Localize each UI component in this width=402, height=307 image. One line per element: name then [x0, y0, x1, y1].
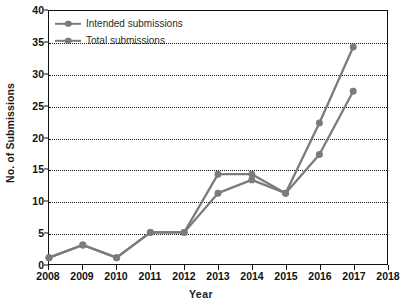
x-axis-tick-label: 2011: [139, 270, 162, 282]
y-axis-title: No. of Submissions: [0, 0, 20, 265]
data-point-marker: [350, 44, 357, 51]
data-point-marker: [316, 119, 323, 126]
x-axis-tick-label: 2018: [376, 270, 399, 282]
x-axis-tick-label: 2013: [206, 270, 229, 282]
series-2: [46, 44, 357, 262]
data-point-marker: [350, 88, 357, 95]
data-point-marker: [215, 190, 222, 197]
y-axis-tick-label: 35: [32, 36, 44, 48]
x-axis-tick-label: 2016: [308, 270, 331, 282]
y-axis-tick-label: 20: [32, 132, 44, 144]
chart-figure: No. of Submissions 0510152025303540 Inte…: [0, 0, 402, 307]
data-point-marker: [282, 190, 289, 197]
x-axis-tick-labels: 2008200920102011201220132014201520162017…: [0, 270, 402, 286]
y-axis-tick-label: 40: [32, 4, 44, 16]
y-axis-tick-label: 15: [32, 163, 44, 175]
x-axis-title: Year: [0, 288, 402, 300]
x-axis-tick-label: 2014: [240, 270, 263, 282]
data-point-marker: [215, 171, 222, 178]
x-axis-tick-label: 2017: [342, 270, 365, 282]
data-point-marker: [46, 254, 53, 261]
data-point-marker: [248, 171, 255, 178]
data-point-marker: [113, 254, 120, 261]
data-point-marker: [181, 229, 188, 236]
data-point-marker: [316, 151, 323, 158]
y-axis-tick-label: 30: [32, 68, 44, 80]
y-axis-tick-label: 10: [32, 195, 44, 207]
data-series-layer: [49, 11, 387, 264]
y-axis-title-text: No. of Submissions: [4, 83, 16, 183]
y-axis-tick-label: 25: [32, 100, 44, 112]
series-line: [49, 91, 353, 257]
x-axis-tick-label: 2010: [104, 270, 127, 282]
x-axis-tick-label: 2015: [274, 270, 297, 282]
x-axis-tick-label: 2009: [70, 270, 93, 282]
y-axis-tick-labels: 0510152025303540: [18, 0, 44, 265]
x-axis-tick-label: 2008: [36, 270, 59, 282]
data-point-marker: [79, 242, 86, 249]
series-line: [49, 47, 353, 258]
series-svg: [49, 11, 387, 264]
series-1: [46, 88, 357, 261]
plot-area: Intended submissionsTotal submissions: [48, 10, 388, 265]
data-point-marker: [147, 229, 154, 236]
x-axis-tick-label: 2012: [172, 270, 195, 282]
